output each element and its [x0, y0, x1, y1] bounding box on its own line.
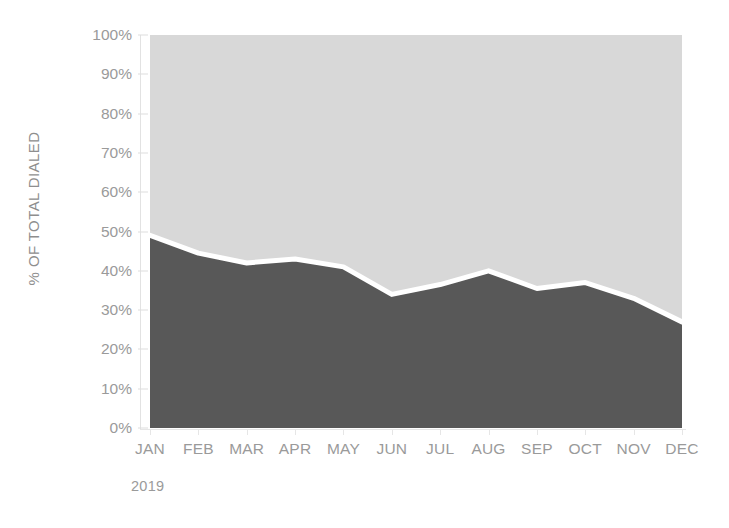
y-tick-mark [138, 428, 148, 429]
y-tick-mark [138, 74, 148, 75]
y-tick-mark [138, 349, 148, 350]
x-tick-label: APR [279, 440, 311, 458]
x-tick-mark [247, 429, 248, 435]
x-axis-tick-labels: JANFEBMARAPRMAYJUNJULAUGSEPOCTNOVDEC [0, 0, 729, 528]
x-tick-mark [634, 429, 635, 435]
x-tick-label: MAR [229, 440, 264, 458]
x-tick-mark [585, 429, 586, 435]
x-tick-mark [682, 429, 683, 435]
area-chart: % OF TOTAL DIALED 0%10%20%30%40%50%60%70… [0, 0, 729, 528]
y-tick-mark [138, 35, 148, 36]
x-tick-mark [489, 429, 490, 435]
y-tick-mark [138, 113, 148, 114]
y-tick-mark [138, 270, 148, 271]
y-tick-mark [138, 310, 148, 311]
x-tick-label: FEB [183, 440, 214, 458]
x-tick-mark [198, 429, 199, 435]
x-tick-label: AUG [471, 440, 505, 458]
x-tick-label: NOV [617, 440, 651, 458]
x-tick-mark [440, 429, 441, 435]
x-tick-mark [392, 429, 393, 435]
y-tick-mark [138, 152, 148, 153]
x-tick-label: OCT [569, 440, 602, 458]
x-tick-label: JUN [376, 440, 407, 458]
y-tick-mark [138, 388, 148, 389]
y-tick-mark [138, 231, 148, 232]
x-tick-label: DEC [665, 440, 698, 458]
x-tick-label: SEP [521, 440, 553, 458]
x-tick-label: JAN [135, 440, 165, 458]
x-tick-label: MAY [327, 440, 360, 458]
x-tick-mark [343, 429, 344, 435]
x-tick-mark [295, 429, 296, 435]
x-tick-mark [150, 429, 151, 435]
x-tick-mark [537, 429, 538, 435]
x-tick-label: JUL [426, 440, 454, 458]
y-tick-mark [138, 192, 148, 193]
x-axis-caption: 2019 [131, 478, 164, 494]
